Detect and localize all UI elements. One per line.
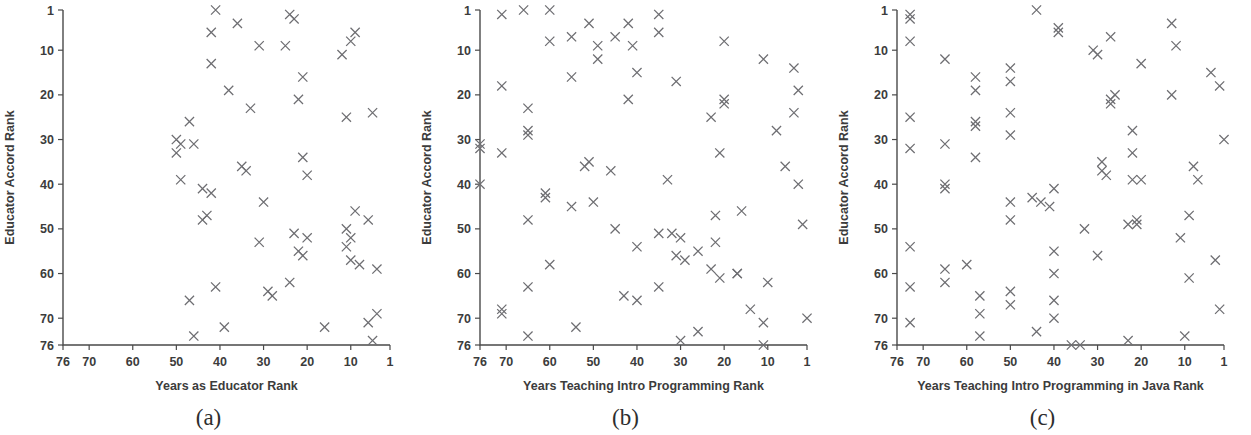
data-point-marker — [207, 59, 216, 68]
data-point-marker — [654, 10, 663, 19]
y-tick-label: 10 — [874, 44, 888, 58]
data-point-marker — [905, 144, 914, 153]
data-point-marker — [224, 86, 233, 95]
x-tick-label: 1 — [1221, 355, 1228, 369]
data-point-marker — [733, 269, 742, 278]
data-point-marker — [497, 10, 506, 19]
data-point-marker — [346, 233, 355, 242]
data-point-marker — [176, 175, 185, 184]
data-point-marker — [246, 104, 255, 113]
plot-area — [63, 10, 390, 345]
data-point-marker — [632, 68, 641, 77]
data-point-marker — [759, 318, 768, 327]
data-point-marker — [715, 273, 724, 282]
data-point-marker — [1093, 251, 1102, 260]
data-point-marker — [337, 50, 346, 59]
y-tick-label: 40 — [457, 178, 471, 192]
data-point-marker — [905, 10, 914, 19]
data-point-marker — [1128, 126, 1137, 135]
data-point-marker — [1006, 287, 1015, 296]
data-point-marker — [654, 229, 663, 238]
data-point-marker — [198, 215, 207, 224]
data-point-marker — [523, 104, 532, 113]
data-point-marker — [1137, 175, 1146, 184]
data-point-marker — [971, 72, 980, 81]
data-point-marker — [1054, 23, 1063, 32]
data-point-marker — [802, 314, 811, 323]
data-point-marker — [905, 242, 914, 251]
data-point-marker — [619, 291, 628, 300]
data-point-marker — [567, 202, 576, 211]
data-point-marker — [172, 148, 181, 157]
data-point-marker — [285, 278, 294, 287]
data-point-marker — [905, 318, 914, 327]
y-tick-label: 20 — [40, 88, 54, 102]
y-tick-label: 70 — [874, 312, 888, 326]
x-tick-label: 10 — [344, 355, 358, 369]
data-point-marker — [720, 37, 729, 46]
y-tick-label: 1 — [881, 4, 888, 18]
data-point-marker — [198, 184, 207, 193]
y-tick-label: 30 — [874, 133, 888, 147]
data-point-marker — [1102, 171, 1111, 180]
data-point-marker — [351, 28, 360, 37]
y-tick-label: 30 — [40, 133, 54, 147]
y-tick-label: 70 — [40, 312, 54, 326]
data-point-marker — [798, 220, 807, 229]
data-point-marker — [1049, 247, 1058, 256]
y-tick-label: 60 — [457, 267, 471, 281]
data-point-marker — [368, 108, 377, 117]
data-point-marker — [1167, 19, 1176, 28]
data-point-marker — [632, 242, 641, 251]
data-points — [172, 5, 382, 345]
y-axis-title: Educator Accord Rank — [3, 110, 17, 244]
data-point-marker — [342, 113, 351, 122]
y-tick-label: 40 — [40, 178, 54, 192]
data-point-marker — [1049, 314, 1058, 323]
data-point-marker — [545, 260, 554, 269]
data-point-marker — [281, 41, 290, 50]
data-point-marker — [971, 153, 980, 162]
x-tick-label: 76 — [890, 355, 904, 369]
data-point-marker — [1215, 305, 1224, 314]
data-point-marker — [654, 282, 663, 291]
data-point-marker — [905, 113, 914, 122]
y-tick-label: 50 — [874, 222, 888, 236]
data-point-marker — [1137, 59, 1146, 68]
panel-caption: (a) — [196, 405, 222, 430]
plot-area — [480, 10, 807, 345]
data-point-marker — [789, 108, 798, 117]
data-point-marker — [346, 37, 355, 46]
data-point-marker — [519, 5, 528, 14]
x-tick-label: 20 — [300, 355, 314, 369]
data-point-marker — [1080, 224, 1089, 233]
y-tick-label: 20 — [457, 88, 471, 102]
data-point-marker — [1049, 296, 1058, 305]
panel-caption: (c) — [1030, 405, 1056, 430]
x-tick-label: 76 — [473, 355, 487, 369]
data-point-marker — [1123, 336, 1132, 345]
data-point-marker — [1128, 175, 1137, 184]
data-point-marker — [1167, 90, 1176, 99]
data-point-marker — [737, 206, 746, 215]
data-point-marker — [720, 95, 729, 104]
x-tick-label: 60 — [960, 355, 974, 369]
data-point-marker — [259, 197, 268, 206]
data-point-marker — [940, 139, 949, 148]
x-tick-label: 70 — [499, 355, 513, 369]
y-tick-label: 1 — [464, 4, 471, 18]
data-point-marker — [606, 166, 615, 175]
data-point-marker — [1211, 256, 1220, 265]
data-point-marker — [289, 229, 298, 238]
data-point-marker — [294, 95, 303, 104]
x-tick-label: 76 — [56, 355, 70, 369]
data-point-marker — [1171, 41, 1180, 50]
data-point-marker — [303, 171, 312, 180]
data-point-marker — [589, 197, 598, 206]
axis-lines — [63, 10, 390, 345]
data-point-marker — [545, 37, 554, 46]
data-points — [905, 5, 1228, 349]
data-point-marker — [523, 331, 532, 340]
data-point-marker — [1049, 269, 1058, 278]
axis-lines — [480, 10, 807, 345]
